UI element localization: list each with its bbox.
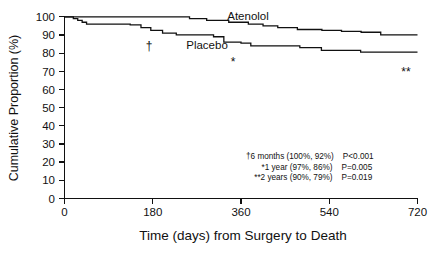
y-axis-title: Cumulative Proportion (%) xyxy=(7,35,21,182)
stat-pvalue-1-year: P=0.005 xyxy=(332,163,396,174)
stat-desc-1-year: *1 year (97%, 86%) xyxy=(246,163,332,174)
stat-desc-2-years: **2 years (90%, 79%) xyxy=(246,173,332,184)
y-tick-label-0: 0 xyxy=(49,193,55,205)
y-tick-label-90: 90 xyxy=(42,29,55,41)
double-asterisk-marker: ** xyxy=(401,65,411,79)
y-tick-label-40: 40 xyxy=(42,120,55,132)
x-axis-ticks xyxy=(65,199,418,205)
x-axis-tick-labels: 0 180 360 540 720 xyxy=(61,206,427,218)
kaplan-meier-figure: 100 90 80 70 60 50 40 30 20 10 0 0 180 3… xyxy=(0,0,433,254)
y-axis-ticks xyxy=(59,17,65,199)
series-label-placebo: Placebo xyxy=(186,39,228,51)
x-tick-label-0: 0 xyxy=(61,206,67,218)
y-tick-label-50: 50 xyxy=(42,102,55,114)
x-tick-label-180: 180 xyxy=(143,206,162,218)
stat-desc-6-months: †6 months (100%, 92%) xyxy=(246,152,334,163)
x-tick-label-720: 720 xyxy=(408,206,427,218)
series-label-atenolol: Atenolol xyxy=(227,10,269,22)
curves-group xyxy=(65,17,418,52)
stat-row-6-months: †6 months (100%, 92%) P<0.001 xyxy=(246,152,396,163)
y-tick-label-70: 70 xyxy=(42,66,55,78)
y-tick-label-60: 60 xyxy=(42,84,55,96)
y-tick-label-100: 100 xyxy=(36,11,55,23)
asterisk-marker: * xyxy=(231,55,236,69)
x-tick-label-540: 540 xyxy=(320,206,339,218)
stat-row-1-year: *1 year (97%, 86%) P=0.005 xyxy=(246,163,396,174)
y-axis-tick-labels: 100 90 80 70 60 50 40 30 20 10 0 xyxy=(36,11,55,205)
y-tick-label-20: 20 xyxy=(42,156,55,168)
stat-pvalue-6-months: P<0.001 xyxy=(334,152,396,163)
statistics-annotation: †6 months (100%, 92%) P<0.001 *1 year (9… xyxy=(246,152,396,184)
dagger-marker: † xyxy=(146,39,153,53)
y-tick-label-80: 80 xyxy=(42,47,55,59)
stat-pvalue-2-years: P=0.019 xyxy=(332,173,396,184)
y-tick-label-30: 30 xyxy=(42,138,55,150)
x-tick-label-360: 360 xyxy=(231,206,250,218)
stat-row-2-years: **2 years (90%, 79%) P=0.019 xyxy=(246,173,396,184)
survival-plot: 100 90 80 70 60 50 40 30 20 10 0 0 180 3… xyxy=(0,0,433,254)
x-axis-title: Time (days) from Surgery to Death xyxy=(139,228,346,243)
y-tick-label-10: 10 xyxy=(42,174,55,186)
